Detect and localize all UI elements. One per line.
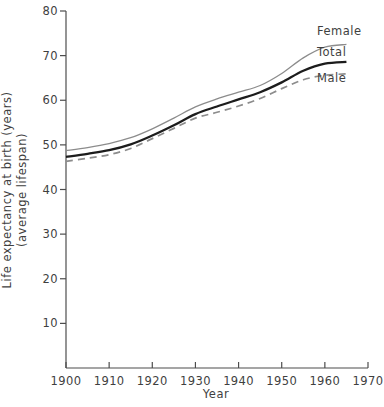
x-tick-label: 1910 <box>94 374 125 388</box>
x-tick-label: 1940 <box>223 374 254 388</box>
x-tick-label: 1920 <box>137 374 168 388</box>
life-expectancy-chart: 1020304050607080 19001910192019301940195… <box>0 0 384 407</box>
y-tick-label: 20 <box>28 272 58 286</box>
series-line-male <box>66 74 346 161</box>
x-tick-label: 1950 <box>266 374 297 388</box>
y-tick-label: 80 <box>28 4 58 18</box>
x-tick-label: 1970 <box>353 374 384 388</box>
series-line-total <box>66 62 346 157</box>
y-tick-label: 10 <box>28 316 58 330</box>
y-tick-label: 30 <box>28 227 58 241</box>
series-label-total: Total <box>317 45 346 59</box>
data-series-group <box>66 44 346 161</box>
x-tick-label: 1930 <box>180 374 211 388</box>
x-axis-title: Year <box>203 387 229 401</box>
series-label-male: Male <box>317 71 346 85</box>
y-axis-title-line1: Life expectancy at birth (years) <box>0 92 15 289</box>
y-tick-marks <box>60 11 66 323</box>
series-label-female: Female <box>317 24 362 38</box>
y-tick-label: 60 <box>28 93 58 107</box>
y-tick-label: 40 <box>28 183 58 197</box>
series-line-female <box>66 44 346 150</box>
x-tick-marks <box>66 362 368 368</box>
y-tick-label: 70 <box>28 49 58 63</box>
y-tick-label: 50 <box>28 138 58 152</box>
y-axis-title: Life expectancy at birth (years) (averag… <box>0 40 30 340</box>
x-tick-label: 1960 <box>309 374 340 388</box>
x-tick-label: 1900 <box>51 374 82 388</box>
y-axis-title-line2: (average lifespan) <box>15 133 30 247</box>
